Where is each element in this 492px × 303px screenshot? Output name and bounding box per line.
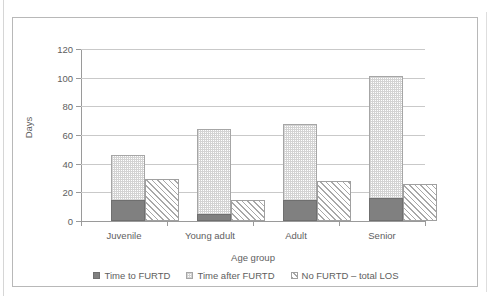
- x-label-young-adult: Young adult: [165, 230, 255, 241]
- figure-frame: 120 100 80 60 40 20 0 Days: [12, 17, 478, 287]
- legend-item-no-furtd-total-los[interactable]: No FURTD – total LOS: [291, 270, 399, 281]
- x-label-adult: Adult: [251, 230, 341, 241]
- bar-senior-no-furtd[interactable]: [403, 184, 437, 221]
- y-tick-label-20: 20: [33, 188, 73, 198]
- y-axis-tick-labels: 120 100 80 60 40 20 0: [29, 18, 73, 288]
- dotted-light-swatch-icon: [186, 272, 193, 279]
- solid-gray-swatch-icon: [93, 272, 100, 279]
- plot-area: [81, 49, 425, 221]
- figure-outer-edge-left: [3, 0, 4, 296]
- x-tick-mark-juvenile: [167, 221, 168, 226]
- x-label-senior: Senior: [337, 230, 427, 241]
- y-tick-label-0: 0: [33, 217, 73, 227]
- bar-adult-no-furtd[interactable]: [317, 181, 351, 221]
- x-tick-mark-senior: [425, 221, 426, 226]
- figure-outer-edge-right: [486, 12, 487, 292]
- bar-juvenile-no-furtd[interactable]: [145, 179, 179, 221]
- bar-young-adult-no-furtd[interactable]: [231, 200, 265, 222]
- gridline-120: [81, 49, 425, 50]
- legend-item-time-after-furtd[interactable]: Time after FURTD: [186, 270, 274, 281]
- legend-label-time-after-furtd: Time after FURTD: [197, 270, 274, 281]
- bar-senior-stacked[interactable]: [369, 76, 403, 221]
- legend-label-time-to-furtd: Time to FURTD: [104, 270, 170, 281]
- x-axis-title: Age group: [81, 252, 425, 263]
- chart-legend: Time to FURTD Time after FURTD No FURTD …: [13, 270, 479, 281]
- hatched-swatch-icon: [291, 272, 298, 279]
- y-tick-label-80: 80: [33, 102, 73, 112]
- bar-segment-time-to-furtd-young-adult[interactable]: [197, 214, 231, 221]
- bar-adult-stacked[interactable]: [283, 124, 317, 222]
- legend-label-no-furtd-total-los: No FURTD – total LOS: [302, 270, 399, 281]
- y-tick-label-60: 60: [33, 131, 73, 141]
- bar-juvenile-stacked[interactable]: [111, 155, 145, 221]
- x-tick-mark-young-adult: [253, 221, 254, 226]
- y-tick-label-100: 100: [33, 74, 73, 84]
- stacked-bar-chart: 120 100 80 60 40 20 0 Days: [13, 18, 479, 288]
- y-tick-label-40: 40: [33, 160, 73, 170]
- bar-segment-time-to-furtd-adult[interactable]: [283, 200, 317, 222]
- bar-segment-time-to-furtd-juvenile[interactable]: [111, 200, 145, 221]
- x-tick-mark-start: [81, 221, 82, 226]
- x-tick-mark-adult: [339, 221, 340, 226]
- y-tick-label-120: 120: [33, 45, 73, 55]
- y-axis-title: Days: [23, 98, 34, 158]
- bar-young-adult-stacked[interactable]: [197, 129, 231, 221]
- bar-segment-time-to-furtd-senior[interactable]: [369, 198, 403, 221]
- x-label-juvenile: Juvenile: [79, 230, 169, 241]
- legend-item-time-to-furtd[interactable]: Time to FURTD: [93, 270, 170, 281]
